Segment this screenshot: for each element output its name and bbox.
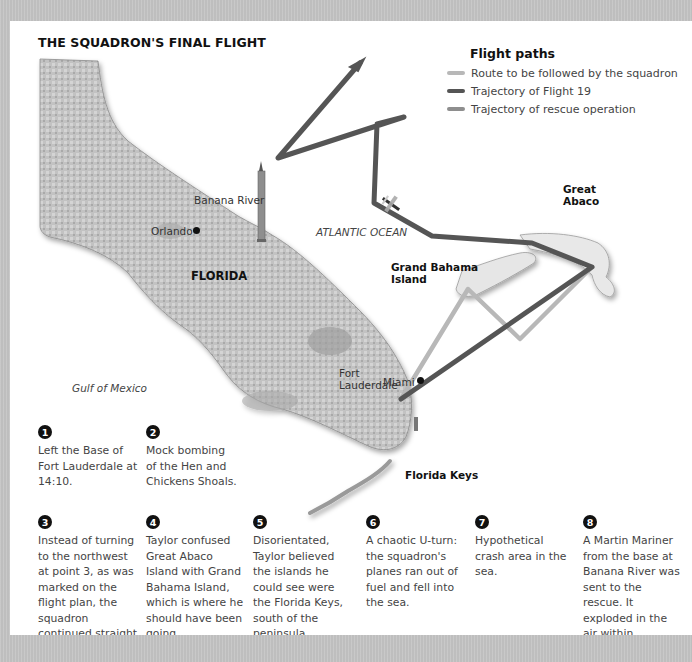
number-1-badge: 1: [38, 425, 52, 439]
infographic-card: THE SQUADRON'S FINAL FLIGHT: [10, 21, 692, 635]
orlando-label: Orlando: [151, 225, 193, 237]
miami-dot: [417, 377, 424, 384]
planned-route-swatch: [447, 71, 465, 75]
rescue-swatch: [447, 107, 465, 111]
legend-title: Flight paths: [470, 46, 678, 61]
number-5-badge: 5: [253, 515, 267, 529]
note-8: 8 A Martin Mariner from the base at Bana…: [583, 515, 683, 635]
number-7-badge: 7: [475, 515, 489, 529]
note-6: 6 A chaotic U-turn: the squadron's plane…: [366, 515, 462, 611]
note-3: 3 Instead of turning to the northwest at…: [38, 515, 138, 635]
number-3-badge: 3: [38, 515, 52, 529]
legend: Flight paths Route to be followed by the…: [447, 46, 678, 118]
legend-item-rescue: Trajectory of rescue operation: [447, 100, 678, 118]
number-2-badge: 2: [146, 425, 160, 439]
flight-19-swatch: [447, 89, 465, 93]
note-7: 7 Hypothetical crash area in the sea.: [475, 515, 575, 580]
number-4-badge: 4: [146, 515, 160, 529]
gulf-of-mexico-label: Gulf of Mexico: [72, 382, 147, 394]
grand-bahama-label: Grand Bahama Island: [391, 261, 478, 285]
great-abaco-label: Great Abaco: [563, 183, 599, 207]
florida-keys-label: Florida Keys: [405, 469, 478, 481]
number-8-badge: 8: [583, 515, 597, 529]
legend-item-planned-route: Route to be followed by the squadron: [447, 64, 678, 82]
number-6-badge: 6: [366, 515, 380, 529]
florida-keys-landmass: [310, 461, 390, 513]
miami-label: Miami: [383, 376, 415, 388]
orlando-dot: [193, 227, 200, 234]
legend-item-flight-19: Trajectory of Flight 19: [447, 82, 678, 100]
note-4: 4 Taylor confused Great Abaco Island wit…: [146, 515, 246, 635]
atlantic-ocean-label: ATLANTIC OCEAN: [316, 226, 407, 238]
note-2: 2 Mock bombing of the Hen and Chickens S…: [146, 425, 238, 490]
note-1: 1 Left the Base of Fort Lauderdale at 14…: [38, 425, 138, 490]
florida-label: FLORIDA: [191, 270, 247, 282]
note-5: 5 Disorientated, Taylor believed the isl…: [253, 515, 353, 635]
banana-river-label: Banana River: [194, 194, 264, 206]
